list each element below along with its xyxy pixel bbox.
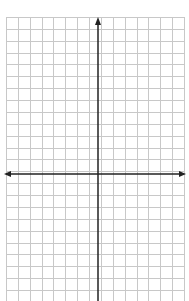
coordinate-plane <box>0 0 189 301</box>
grid-lines <box>6 17 185 301</box>
y-axis-up-arrow-icon <box>95 17 101 25</box>
